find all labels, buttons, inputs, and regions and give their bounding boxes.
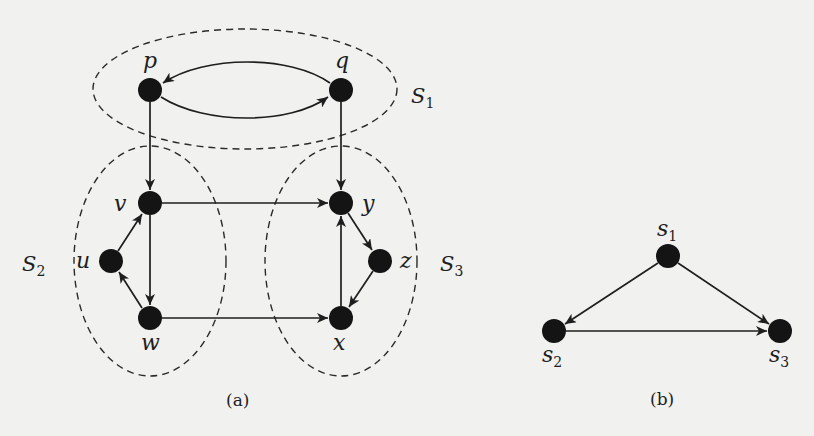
edge-s1-to-s2 xyxy=(565,263,658,324)
figure-canvas: p q v u w y z x S1 S2 S3 (a) s1 s2 s3 (b… xyxy=(0,0,814,436)
panel-a: p q v u w y z x S1 S2 S3 (a) xyxy=(22,29,463,410)
panel-b: s1 s2 s3 (b) xyxy=(542,216,792,409)
label-set-s3: S3 xyxy=(440,252,463,279)
node-s2 xyxy=(542,319,566,343)
label-y: y xyxy=(361,191,375,216)
label-v: v xyxy=(114,191,127,216)
caption-b: (b) xyxy=(650,389,674,409)
label-w: w xyxy=(141,330,160,355)
label-x: x xyxy=(333,330,346,355)
label-s1: s1 xyxy=(657,216,677,244)
label-set-s1: S1 xyxy=(411,84,434,111)
edge-p-to-q xyxy=(161,97,328,118)
node-s3 xyxy=(768,319,792,343)
node-x xyxy=(329,306,353,330)
edge-s1-to-s3 xyxy=(678,263,769,324)
label-u: u xyxy=(76,248,90,273)
label-z: z xyxy=(399,248,412,273)
label-set-s2: S2 xyxy=(22,252,45,279)
label-p: p xyxy=(143,48,157,73)
node-s1 xyxy=(656,244,680,268)
node-v xyxy=(138,191,162,215)
node-z xyxy=(368,249,392,273)
node-u xyxy=(99,249,123,273)
node-w xyxy=(138,306,162,330)
label-q: q xyxy=(335,48,349,73)
edge-z-to-x xyxy=(349,271,373,307)
edge-q-to-p xyxy=(163,62,330,83)
caption-a: (a) xyxy=(226,390,249,410)
edge-y-to-z xyxy=(348,213,372,250)
node-q xyxy=(329,78,353,102)
edge-u-to-v xyxy=(118,214,142,251)
node-p xyxy=(138,78,162,102)
label-s3: s3 xyxy=(769,342,789,370)
edge-w-to-u xyxy=(119,272,142,308)
node-y xyxy=(329,191,353,215)
label-s2: s2 xyxy=(542,342,562,370)
